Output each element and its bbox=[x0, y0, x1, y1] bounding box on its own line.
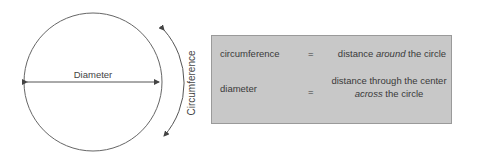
circle-diagram: Diameter Circumference bbox=[0, 0, 210, 153]
definitions-box: circumference = distance around the circ… bbox=[211, 35, 452, 124]
term-diameter: diameter bbox=[220, 83, 257, 94]
def-text: the circle bbox=[383, 88, 424, 99]
def-text: distance bbox=[338, 48, 376, 59]
definition-diameter: distance through the centeracross the ci… bbox=[326, 75, 452, 100]
definition-circumference: distance around the circle bbox=[332, 48, 452, 59]
term-circumference: circumference bbox=[220, 48, 280, 59]
def-text: distance through the center bbox=[331, 75, 446, 86]
circumference-label: Circumference bbox=[186, 50, 197, 115]
equals-sign: = bbox=[308, 86, 314, 97]
equals-sign: = bbox=[308, 48, 314, 59]
def-emphasis: around bbox=[376, 48, 406, 59]
circumference-arrow bbox=[164, 30, 184, 136]
def-text: the circle bbox=[405, 48, 446, 59]
def-emphasis: across bbox=[355, 88, 383, 99]
diameter-label: Diameter bbox=[74, 69, 113, 80]
